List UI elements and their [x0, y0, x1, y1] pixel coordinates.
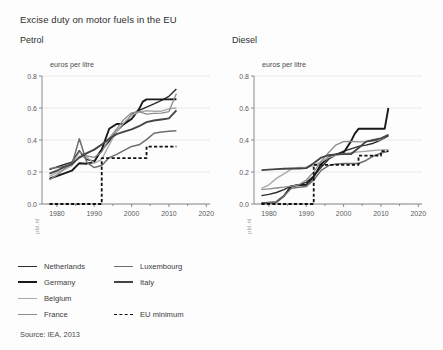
- figure-card: Excise duty on motor fuels in the EU Pet…: [0, 0, 443, 350]
- svg-text:0.4: 0.4: [27, 137, 37, 144]
- legend-swatch-icon: [114, 266, 133, 267]
- y-axis-unit-petrol: euros per litre: [50, 60, 94, 69]
- legend-item-italy[interactable]: Italy: [114, 274, 183, 290]
- series-france: [261, 134, 388, 189]
- legend-item-germany[interactable]: Germany: [18, 274, 85, 290]
- svg-text:0.0: 0.0: [239, 201, 249, 208]
- legend-swatch-icon: [18, 298, 37, 299]
- svg-text:0.6: 0.6: [27, 105, 37, 112]
- legend-label: Belgium: [44, 294, 71, 303]
- svg-text:1980: 1980: [261, 210, 277, 217]
- figure-title: Excise duty on motor fuels in the EU: [20, 14, 177, 25]
- svg-text:0.0: 0.0: [27, 201, 37, 208]
- svg-text:2010: 2010: [373, 210, 389, 217]
- chart-petrol: 0.00.20.40.60.819801990200020102020: [16, 70, 216, 230]
- legend-swatch-icon: [18, 281, 37, 283]
- panel-title-petrol: Petrol: [20, 35, 44, 45]
- legend-swatch-icon: [114, 298, 133, 299]
- legend-item-eu-minimum[interactable]: EU minimum: [114, 306, 183, 322]
- legend-label: Luxembourg: [140, 262, 182, 271]
- y-axis-unit-diesel: euros per litre: [262, 60, 306, 69]
- legend-item-spacer: [114, 290, 183, 306]
- legend-column-0: NetherlandsGermanyBelgiumFrance: [18, 258, 85, 322]
- svg-text:2020: 2020: [198, 210, 214, 217]
- svg-text:0.2: 0.2: [239, 169, 249, 176]
- legend-swatch-icon: [18, 314, 37, 315]
- legend-label: Germany: [44, 278, 75, 287]
- svg-text:0.8: 0.8: [239, 73, 249, 80]
- legend-column-1: LuxembourgItalyEU minimum: [114, 258, 183, 322]
- chart-diesel: 0.00.20.40.60.819801990200020102020: [228, 70, 428, 230]
- watermark-petrol: pbl.nl: [34, 218, 40, 234]
- svg-text:2010: 2010: [161, 210, 177, 217]
- legend-label: France: [44, 310, 68, 319]
- series-italy: [49, 110, 176, 173]
- source-note: Source: IEA, 2013: [20, 330, 80, 339]
- svg-text:1990: 1990: [298, 210, 314, 217]
- svg-text:1990: 1990: [86, 210, 102, 217]
- legend-label: Italy: [140, 278, 154, 287]
- svg-text:2000: 2000: [336, 210, 352, 217]
- legend-item-france[interactable]: France: [18, 306, 85, 322]
- legend-item-belgium[interactable]: Belgium: [18, 290, 85, 306]
- legend-item-luxembourg[interactable]: Luxembourg: [114, 258, 183, 274]
- legend-swatch-icon: [18, 266, 37, 267]
- svg-text:0.2: 0.2: [27, 169, 37, 176]
- svg-text:0.6: 0.6: [239, 105, 249, 112]
- svg-text:2000: 2000: [124, 210, 140, 217]
- legend-swatch-icon: [114, 314, 133, 315]
- legend-label: Netherlands: [44, 262, 85, 271]
- legend-swatch-icon: [114, 281, 133, 283]
- svg-text:0.8: 0.8: [27, 73, 37, 80]
- legend-item-netherlands[interactable]: Netherlands: [18, 258, 85, 274]
- svg-text:0.4: 0.4: [239, 137, 249, 144]
- legend-label: EU minimum: [140, 310, 183, 319]
- series-eu-minimum: [49, 147, 176, 204]
- svg-text:1980: 1980: [49, 210, 65, 217]
- series-netherlands: [261, 136, 388, 196]
- watermark-diesel: pbl.nl: [246, 218, 252, 234]
- panel-title-diesel: Diesel: [232, 35, 257, 45]
- svg-text:2020: 2020: [410, 210, 426, 217]
